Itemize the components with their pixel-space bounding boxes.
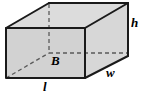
label-base-area: B <box>51 54 60 67</box>
rectangular-prism-diagram: h w l B <box>0 0 145 97</box>
label-length: l <box>43 80 47 93</box>
label-height: h <box>131 16 138 29</box>
label-width: w <box>106 66 115 79</box>
prism-drawing <box>0 0 145 97</box>
